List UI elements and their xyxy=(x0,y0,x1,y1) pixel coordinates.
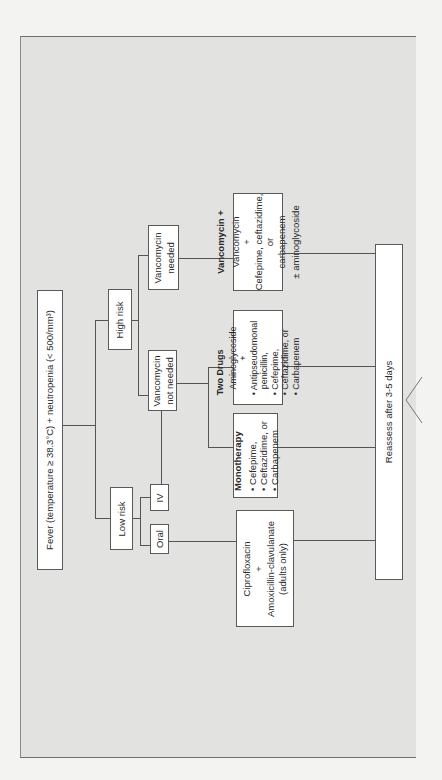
two-drugs-box: Two Drugs Aminoglycoside + • Antipseudom… xyxy=(233,310,283,405)
start-fever-box: Fever (temperature ≥ 38.3°C) + neutropen… xyxy=(37,290,63,570)
connector-to-high-risk xyxy=(95,320,108,321)
connector-risk-trunk xyxy=(95,320,96,518)
connector-monotherapy-to-reassess xyxy=(277,447,375,448)
low-risk-box: Low risk xyxy=(110,487,133,550)
connector-oral-out xyxy=(168,541,236,542)
connector-fever-out xyxy=(62,425,95,426)
vancomycin-not-needed-box: Vancomycin not needed xyxy=(148,350,177,411)
connector-to-oral xyxy=(140,545,150,546)
connector-to-iv xyxy=(140,497,150,498)
connector-to-vanco-needed xyxy=(138,255,148,256)
monotherapy-box: Monotherapy • Cefepime, • Ceftazidime, o… xyxy=(233,413,278,498)
iv-box: IV xyxy=(150,484,169,511)
vancomycin-needed-box: Vancomycin needed xyxy=(148,225,179,290)
diagram-panel xyxy=(20,36,416,758)
connector-to-monotherapy xyxy=(208,447,233,448)
vancomycin-plus-text: Vancomycin + Vancomycin + Cefepime, ceft… xyxy=(215,194,302,291)
chevron-left-icon xyxy=(402,375,426,425)
connector-to-vanco-not-needed xyxy=(138,395,148,396)
connector-high-risk-out xyxy=(131,320,138,321)
vancomycin-not-needed-label: Vancomycin not needed xyxy=(150,355,175,406)
connector-to-low-risk xyxy=(95,518,110,519)
connector-vanco-not-needed-out xyxy=(176,383,208,384)
oral-box: Oral xyxy=(150,524,169,554)
connector-low-risk-out xyxy=(132,518,140,519)
connector-oral-to-reassess xyxy=(293,540,375,541)
oral-label: Oral xyxy=(153,530,166,548)
two-drugs-text: Two Drugs Aminoglycoside + • Antipseudom… xyxy=(215,320,301,395)
reassess-box: Reassess after 3-5 days xyxy=(375,244,403,580)
oral-regimen-box: Ciprofloxacin + Amoxicillin-clavulanate … xyxy=(236,510,294,627)
monotherapy-text: Monotherapy • Cefepime, • Ceftazidime, o… xyxy=(232,421,280,491)
vancomycin-needed-label: Vancomycin needed xyxy=(151,232,176,283)
connector-route-trunk xyxy=(140,497,141,545)
connector-vanco-trunk xyxy=(138,255,139,395)
high-risk-label: High risk xyxy=(114,301,127,338)
connector-drugs-trunk xyxy=(208,367,209,447)
iv-label: IV xyxy=(153,493,166,502)
oral-regimen-text: Ciprofloxacin + Amoxicillin-clavulanate … xyxy=(241,520,289,616)
vancomycin-plus-box: Vancomycin + Vancomycin + Cefepime, ceft… xyxy=(233,193,283,291)
high-risk-box: High risk xyxy=(108,289,132,350)
connector-iv-to-vanco-not-needed xyxy=(161,410,162,484)
start-fever-text: Fever (temperature ≥ 38.3°C) + neutropen… xyxy=(44,310,57,550)
reassess-label: Reassess after 3-5 days xyxy=(383,361,396,463)
low-risk-label: Low risk xyxy=(115,501,128,536)
